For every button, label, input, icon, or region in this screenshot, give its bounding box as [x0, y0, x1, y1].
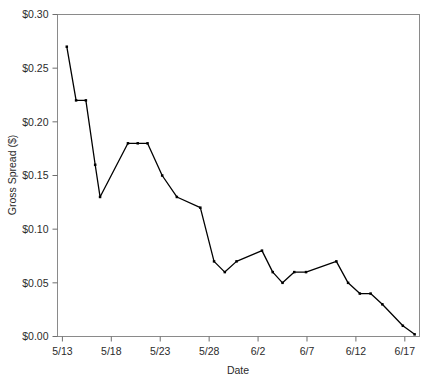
- chart-canvas: $0.00$0.05$0.10$0.15$0.20$0.25$0.30 5/13…: [0, 0, 434, 380]
- y-axis-title: Gross Spread ($): [6, 135, 18, 216]
- data-series-gross-spread: [66, 45, 416, 335]
- x-tick-label: 5/28: [199, 345, 220, 357]
- data-point-marker: [347, 282, 350, 285]
- x-tick-label: 6/12: [346, 345, 367, 357]
- y-tick-label: $0.15: [22, 169, 48, 181]
- y-tick-label: $0.30: [22, 8, 48, 20]
- data-point-marker: [127, 142, 130, 145]
- x-tick-label: 5/18: [101, 345, 122, 357]
- series-markers-gross-spread: [66, 45, 416, 335]
- y-axis-ticks: [53, 15, 58, 337]
- y-tick-label: $0.25: [22, 62, 48, 74]
- gross-spread-line-chart: $0.00$0.05$0.10$0.15$0.20$0.25$0.30 5/13…: [0, 0, 434, 380]
- data-point-marker: [413, 333, 416, 336]
- x-tick-label: 6/7: [300, 345, 315, 357]
- data-point-marker: [281, 282, 284, 285]
- x-tick-label: 5/23: [150, 345, 171, 357]
- data-point-marker: [305, 271, 308, 274]
- data-point-marker: [199, 206, 202, 209]
- data-point-marker: [381, 303, 384, 306]
- data-point-marker: [136, 142, 139, 145]
- x-tick-label: 6/17: [395, 345, 416, 357]
- data-point-marker: [293, 271, 296, 274]
- data-point-marker: [94, 164, 97, 167]
- y-tick-label: $0.00: [22, 330, 48, 342]
- y-axis-tick-labels: $0.00$0.05$0.10$0.15$0.20$0.25$0.30: [22, 8, 48, 342]
- data-point-marker: [85, 99, 88, 102]
- series-line-gross-spread: [67, 47, 415, 335]
- x-axis-ticks: [62, 337, 404, 342]
- data-point-marker: [235, 260, 238, 263]
- y-tick-label: $0.05: [22, 277, 48, 289]
- x-tick-label: 5/13: [52, 345, 73, 357]
- data-point-marker: [99, 196, 102, 199]
- y-tick-label: $0.20: [22, 116, 48, 128]
- data-point-marker: [75, 99, 78, 102]
- data-point-marker: [271, 271, 274, 274]
- x-axis-tick-labels: 5/135/185/235/286/26/76/126/17: [52, 345, 415, 357]
- data-point-marker: [224, 271, 227, 274]
- x-tick-label: 6/2: [251, 345, 266, 357]
- data-point-marker: [146, 142, 149, 145]
- data-point-marker: [161, 174, 164, 177]
- data-point-marker: [359, 292, 362, 295]
- data-point-marker: [261, 249, 264, 252]
- data-point-marker: [66, 45, 69, 48]
- data-point-marker: [402, 325, 405, 328]
- y-tick-label: $0.10: [22, 223, 48, 235]
- x-axis-title: Date: [227, 364, 249, 376]
- data-point-marker: [213, 260, 216, 263]
- data-point-marker: [176, 196, 179, 199]
- data-point-marker: [335, 260, 338, 263]
- data-point-marker: [369, 292, 372, 295]
